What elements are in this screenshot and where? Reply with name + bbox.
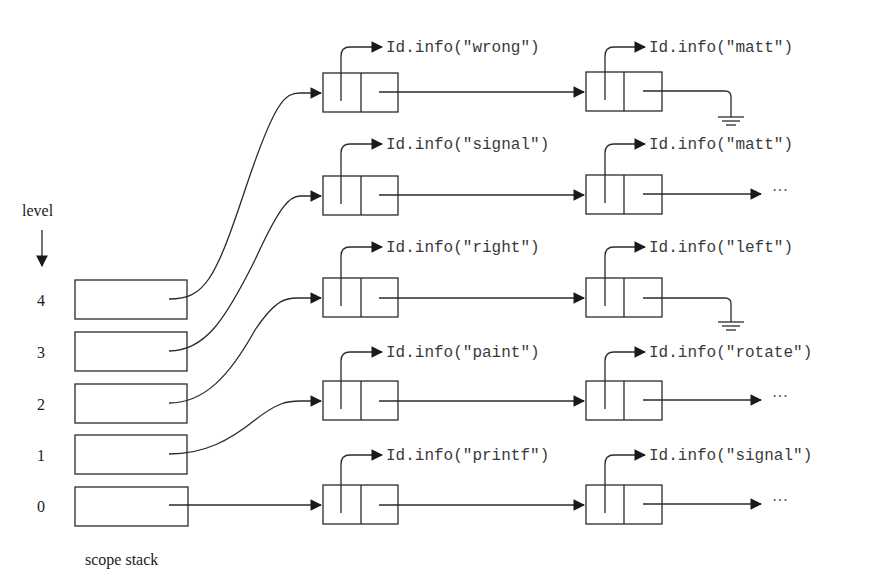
stack-slot bbox=[75, 487, 188, 526]
chain-row: Id.info("right") Id.info("left") bbox=[323, 239, 793, 330]
stack-row-0: 0 bbox=[37, 487, 188, 526]
pointer-level-2 bbox=[169, 298, 321, 403]
info-label: Id.info("matt") bbox=[649, 136, 793, 154]
stack-row-4: 4 bbox=[37, 280, 187, 319]
ellipsis-icon: ··· bbox=[772, 182, 788, 199]
scope-stack-label: scope stack bbox=[85, 551, 158, 569]
ellipsis-icon: ··· bbox=[772, 492, 788, 509]
pointer-level-3 bbox=[169, 196, 321, 351]
info-label: Id.info("left") bbox=[649, 239, 793, 257]
info-label: Id.info("signal") bbox=[649, 447, 812, 465]
chain-row: Id.info("wrong") Id.info("matt") bbox=[323, 39, 793, 125]
stack-row-2: 2 bbox=[37, 384, 187, 423]
info-label: Id.info("matt") bbox=[649, 39, 793, 57]
info-label: Id.info("paint") bbox=[386, 344, 540, 362]
level-number: 4 bbox=[37, 292, 45, 309]
level-number: 2 bbox=[37, 396, 45, 413]
scope-stack: 4 3 2 1 0 scope stack bbox=[37, 280, 188, 569]
info-label: Id.info("signal") bbox=[386, 136, 549, 154]
info-label: Id.info("printf") bbox=[386, 447, 549, 465]
symbol-table-diagram: level 4 3 2 1 0 scope stack bbox=[0, 0, 877, 588]
chain-row: Id.info("printf") Id.info("signal") ··· bbox=[323, 447, 812, 524]
stack-row-3: 3 bbox=[37, 332, 187, 371]
info-label: Id.info("wrong") bbox=[386, 39, 540, 57]
level-number: 3 bbox=[37, 344, 45, 361]
info-label: Id.info("right") bbox=[386, 239, 540, 257]
chain-row: Id.info("paint") Id.info("rotate") ··· bbox=[323, 344, 812, 420]
level-label: level bbox=[22, 202, 54, 219]
stack-pointers bbox=[169, 93, 321, 505]
ellipsis-icon: ··· bbox=[772, 388, 788, 405]
level-number: 1 bbox=[37, 447, 45, 464]
info-label: Id.info("rotate") bbox=[649, 344, 812, 362]
level-number: 0 bbox=[37, 498, 45, 515]
pointer-level-1 bbox=[169, 401, 321, 454]
chain-row: Id.info("signal") Id.info("matt") ··· bbox=[323, 136, 793, 215]
stack-row-1: 1 bbox=[37, 435, 187, 474]
